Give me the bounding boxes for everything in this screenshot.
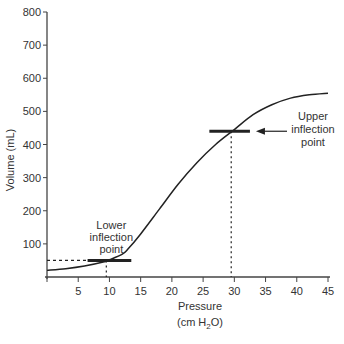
upper-inflection-arrow-head [256, 128, 265, 135]
y-tick-label: 200 [23, 205, 41, 217]
y-tick-label: 700 [23, 39, 41, 51]
lower-inflection-label: inflection [90, 231, 133, 243]
x-tick-label: 30 [228, 285, 240, 297]
y-tick-label: 600 [23, 72, 41, 84]
x-tick-label: 40 [291, 285, 303, 297]
x-tick-label: 35 [259, 285, 271, 297]
lower-inflection-label: Lower [96, 219, 126, 231]
y-tick-label: 500 [23, 105, 41, 117]
lower-inflection-label: point [99, 243, 123, 255]
x-units-prefix: (cm H [177, 316, 206, 328]
upper-inflection-label: inflection [291, 123, 334, 135]
y-axis-label: Volume (mL) [4, 129, 16, 191]
x-tick-label: 15 [135, 285, 147, 297]
x-tick-label: 25 [197, 285, 209, 297]
x-units-suffix: O) [211, 316, 223, 328]
pressure-volume-chart: 1002003004005006007008005101520253035404… [0, 0, 344, 344]
upper-inflection-label: Upper [298, 110, 328, 122]
upper-inflection-label: point [301, 136, 325, 148]
x-tick-label: 5 [75, 285, 81, 297]
y-tick-label: 300 [23, 172, 41, 184]
guide-lines [47, 131, 231, 277]
annotations-layer: LowerinflectionpointUpperinflectionpoint [88, 110, 335, 260]
x-tick-label: 10 [103, 285, 115, 297]
y-tick-label: 100 [23, 238, 41, 250]
pv-curve [47, 93, 328, 270]
x-axis-units: (cm H2O) [177, 316, 223, 331]
y-tick-label: 800 [23, 6, 41, 18]
series-layer [47, 93, 328, 270]
x-tick-label: 20 [166, 285, 178, 297]
y-tick-label: 400 [23, 139, 41, 151]
axes: 1002003004005006007008005101520253035404… [23, 6, 334, 297]
x-tick-label: 45 [322, 285, 334, 297]
x-axis-label: Pressure [178, 300, 222, 312]
